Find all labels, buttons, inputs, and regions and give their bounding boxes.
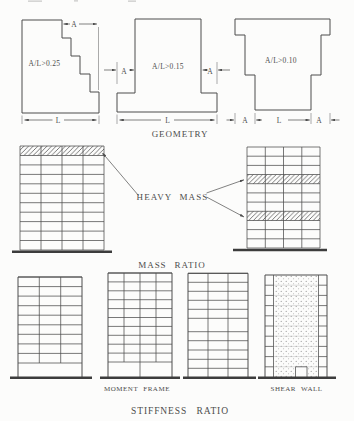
figure-canvas: A/L>0.25 A L A/L>0.15 A A L (0, 0, 354, 421)
leader-line (207, 180, 245, 193)
dim-a-left-label: A (242, 116, 248, 125)
ratio-label: A/L>0.25 (29, 59, 61, 68)
leader-line (207, 197, 245, 217)
dim-a-left-label: A (121, 67, 127, 76)
geometry-caption: GEOMETRY (152, 129, 209, 139)
mass-ratio-caption: MASS RATIO (138, 260, 205, 270)
mass-ratio-section: HEAVY MASS MASS RATIO (12, 146, 327, 270)
ratio-label: A/L>0.10 (265, 56, 297, 65)
column-lines (247, 147, 320, 248)
soft-story-building (10, 277, 92, 378)
door-opening (296, 367, 308, 377)
column-lines (208, 273, 228, 377)
heavy-mass-annotation: HEAVY MASS (137, 192, 209, 202)
column-lines (39, 277, 60, 363)
dim-a-right-label: A (207, 67, 213, 76)
dim-a-right-label: A (316, 116, 322, 125)
building-outline (18, 277, 82, 377)
stiffness-ratio-section: MOMENT FRAME SHEAR WALL STIFFNESS RATIO (10, 273, 336, 416)
column-lines (20, 146, 104, 250)
dim-a-label: A (71, 20, 77, 29)
column-lines (124, 273, 156, 377)
floor-lines (18, 277, 82, 363)
mass-right-building (233, 147, 327, 250)
stiffness-ratio-caption: STIFFNESS RATIO (131, 406, 229, 416)
floor-lines (188, 273, 248, 368)
dim-l-label: L (277, 116, 282, 125)
ratio-label: A/L>0.15 (152, 62, 184, 71)
dim-l-label: L (165, 116, 170, 125)
flared-building: A/L>0.10 A L A (227, 19, 340, 125)
leader-line (103, 153, 139, 196)
shear-wall-label: SHEAR WALL (270, 385, 322, 393)
moment-frame-building: MOMENT FRAME (100, 273, 180, 393)
stepped-building: A/L>0.25 A L (22, 20, 99, 125)
shear-wall-building: SHEAR WALL (258, 275, 336, 393)
geometry-section: A/L>0.25 A L A/L>0.15 A A L (22, 19, 340, 139)
tall-story-building (183, 273, 256, 378)
moment-frame-label: MOMENT FRAME (104, 385, 170, 393)
tower-building: A/L>0.15 A A L (104, 19, 230, 125)
dim-l-label: L (56, 116, 61, 125)
seismic-irregularity-figure: A/L>0.25 A L A/L>0.15 A A L (0, 0, 354, 421)
building-outline (188, 273, 248, 377)
mass-left-building (12, 146, 112, 252)
